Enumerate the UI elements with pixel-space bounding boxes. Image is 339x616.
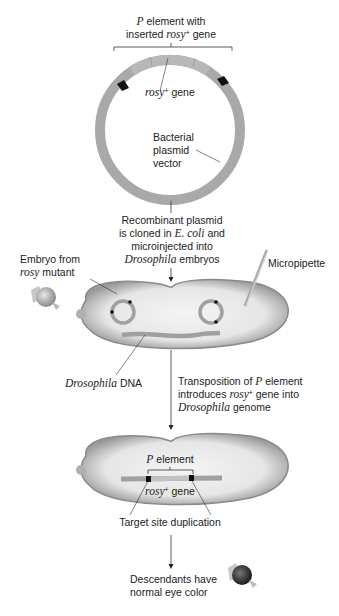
bacterial-plasmid: [100, 57, 240, 200]
target-site-duplication-label: Target site duplication: [105, 516, 235, 529]
arrow-down-icon: [169, 564, 174, 569]
p-element-bracket: [114, 43, 232, 51]
micropipette-label: Micropipette: [268, 257, 325, 270]
p-element-transformation-diagram: P element with inserted rosy+ gene rosy+…: [0, 0, 339, 616]
fly-head-normal-eye-icon: [228, 563, 257, 588]
rosy-gene-label: rosy+ gene: [145, 86, 195, 99]
p-element-inserted-label: P element: [130, 453, 210, 466]
descendants-label: Descendants have normal eye color: [130, 573, 217, 599]
arrow-down-icon: [169, 425, 174, 430]
fly-head-mutant-eye-icon: [31, 286, 60, 310]
bacterial-plasmid-vector-label: Bacterial plasmid vector: [153, 131, 194, 170]
step2-description: Transposition of P element introduces ro…: [178, 375, 303, 414]
step1-description: Recombinant plasmid is cloned in E. coli…: [110, 214, 234, 266]
drosophila-dna-label: Drosophila DNA: [65, 377, 142, 390]
embryo-rosy-mutant: [76, 279, 288, 375]
embryo-transformed: [76, 433, 288, 515]
p-element-label: P element with inserted rosy+ gene: [110, 15, 232, 41]
rosy-gene-inserted-label: rosy+ gene: [130, 485, 210, 498]
arrow-down-icon: [169, 277, 174, 282]
embryo-from-rosy-mutant-label: Embryo from rosy mutant: [20, 253, 80, 279]
